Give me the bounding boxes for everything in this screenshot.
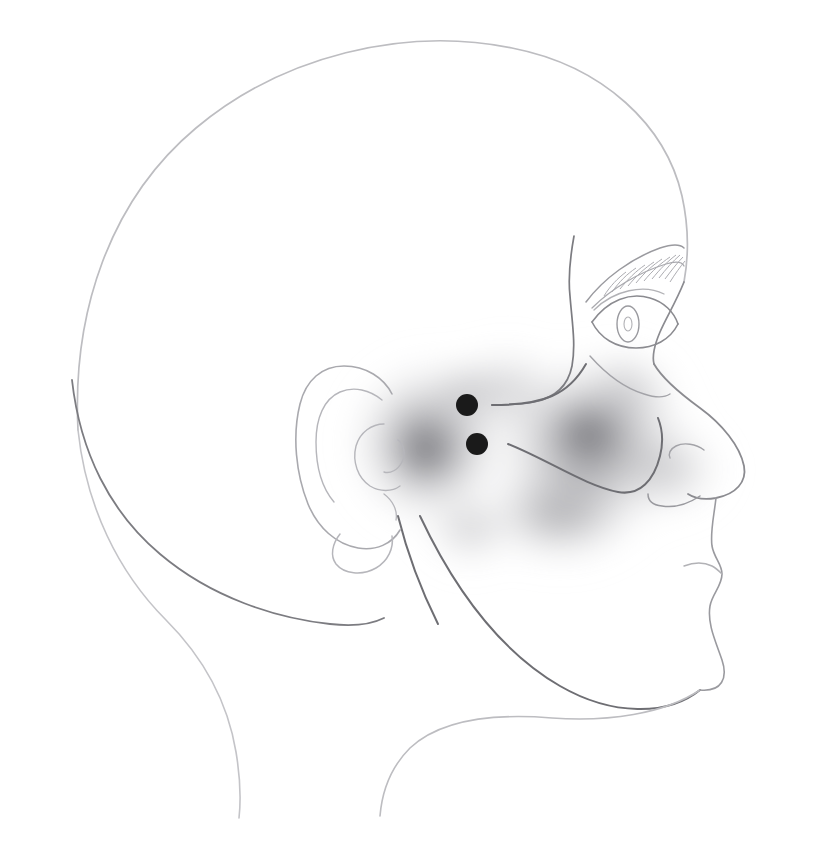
shading-blob-cheek-tail xyxy=(598,414,738,526)
figure-root xyxy=(0,0,813,846)
shading-blob-jaw-tail xyxy=(412,480,528,576)
trigger-point-marker-upper[interactable] xyxy=(456,394,478,416)
trigger-point-marker-lower[interactable] xyxy=(466,433,488,455)
shading-blob-upper-bridge xyxy=(410,348,526,436)
head-profile-illustration xyxy=(0,0,813,846)
